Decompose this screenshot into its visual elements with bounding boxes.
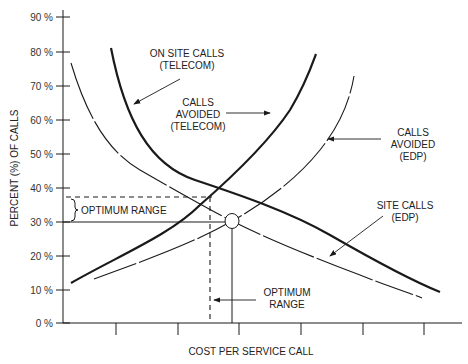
svg-text:(TELECOM): (TELECOM): [160, 60, 215, 71]
svg-text:CALLS: CALLS: [182, 97, 214, 108]
y-tick-label: 50 %: [30, 149, 53, 160]
curve-calls-avoided-telecom: [71, 54, 316, 283]
y-axis: 0 % 10 % 20 % 30 % 40 % 50 % 60 % 70 % 8…: [9, 10, 70, 329]
svg-text:SITE CALLS: SITE CALLS: [377, 200, 434, 211]
x-axis: COST PER SERVICE CALL: [63, 323, 462, 357]
chart-canvas: 0 % 10 % 20 % 30 % 40 % 50 % 60 % 70 % 8…: [0, 0, 468, 364]
annotation-calls-avoided-edp: CALLS AVOIDED (EDP): [328, 127, 435, 162]
y-tick-label: 0 %: [36, 318, 53, 329]
y-tick-label: 90 %: [30, 12, 53, 23]
y-tick-label: 30 %: [30, 217, 53, 228]
y-tick-label: 80 %: [30, 47, 53, 58]
svg-text:CALLS: CALLS: [397, 127, 429, 138]
y-tick-label: 40 %: [30, 183, 53, 194]
curve-site-calls-edp: [94, 76, 354, 279]
svg-text:(TELECOM): (TELECOM): [171, 121, 226, 132]
svg-text:AVOIDED: AVOIDED: [176, 109, 220, 120]
brace-icon: [71, 199, 78, 221]
svg-text:(EDP): (EDP): [399, 151, 426, 162]
y-tick-label: 10 %: [30, 285, 53, 296]
curve-on-site-calls-telecom: [111, 48, 440, 292]
svg-text:RANGE: RANGE: [269, 299, 305, 310]
svg-text:OPTIMUM: OPTIMUM: [263, 287, 310, 298]
annotation-calls-avoided-telecom: CALLS AVOIDED (TELECOM): [171, 97, 271, 132]
y-tick-label: 60 %: [30, 115, 53, 126]
annotation-on-site-calls-telecom: ON SITE CALLS (TELECOM): [134, 48, 225, 104]
x-axis-title: COST PER SERVICE CALL: [188, 346, 314, 357]
arrow-icon: [134, 79, 180, 104]
y-axis-title: PERCENT (%) OF CALLS: [9, 109, 20, 226]
optimum-point-marker: [225, 214, 239, 229]
optimum-range-label: OPTIMUM RANGE: [81, 205, 167, 216]
annotation-site-calls-edp: SITE CALLS (EDP): [330, 200, 434, 256]
svg-text:(EDP): (EDP): [391, 212, 418, 223]
y-tick-label: 20 %: [30, 251, 53, 262]
svg-text:ON SITE CALLS: ON SITE CALLS: [150, 48, 225, 59]
annotation-optimum-range-bottom: OPTIMUM RANGE: [214, 287, 311, 310]
y-tick-label: 70 %: [30, 81, 53, 92]
svg-text:AVOIDED: AVOIDED: [391, 139, 435, 150]
